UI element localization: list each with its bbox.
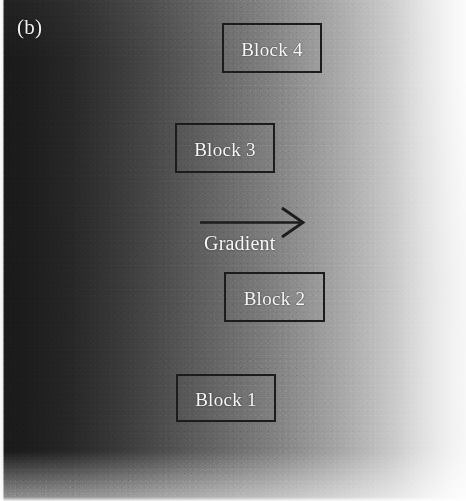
block-label-1: Block 1	[195, 390, 257, 409]
block-box-1: Block 1	[176, 374, 276, 422]
block-label-2: Block 2	[244, 289, 306, 308]
gradient-arrow-label: Gradient	[204, 233, 276, 253]
block-box-4: Block 4	[222, 23, 322, 73]
block-box-2: Block 2	[224, 272, 325, 322]
block-label-4: Block 4	[241, 40, 303, 59]
block-box-3: Block 3	[175, 123, 275, 173]
figure-panel: (b) Block 4 Block 3 Gradient Block 2 Blo…	[0, 0, 466, 501]
panel-label: (b)	[17, 17, 42, 38]
block-label-3: Block 3	[194, 140, 256, 159]
